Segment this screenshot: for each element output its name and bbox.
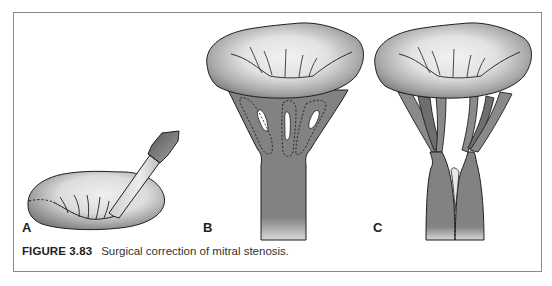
panel-label-a: A xyxy=(22,220,31,235)
panel-c-valve-annulus xyxy=(375,23,532,98)
panel-c-chordae xyxy=(398,92,512,240)
panel-b-valve-annulus xyxy=(207,23,364,98)
panel-label-c: C xyxy=(373,220,382,235)
figure-number: FIGURE 3.83 xyxy=(22,245,92,257)
panel-b-chordae xyxy=(228,90,348,240)
panel-label-b: B xyxy=(203,220,212,235)
figure-caption: FIGURE 3.83Surgical correction of mitral… xyxy=(22,245,289,257)
figure-caption-text: Surgical correction of mitral stenosis. xyxy=(101,245,289,257)
illustration xyxy=(0,0,552,286)
